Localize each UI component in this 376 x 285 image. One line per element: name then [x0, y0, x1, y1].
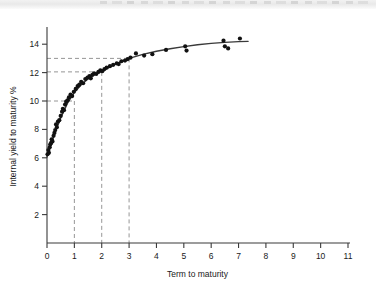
- figure-page: 246810121401234567891011Term to maturity…: [0, 0, 376, 285]
- data-point: [59, 114, 63, 118]
- data-point: [50, 139, 54, 143]
- scatter-series-bond-observations: [45, 36, 242, 156]
- data-point: [81, 81, 85, 85]
- x-axis-tick-label-0: 0: [45, 251, 50, 261]
- y-axis-tick-label-10: 10: [30, 96, 40, 106]
- yield-curve-figure: 246810121401234567891011Term to maturity…: [0, 9, 376, 285]
- y-axis-tick-label-12: 12: [30, 68, 40, 78]
- x-axis-tick-label-1: 1: [72, 251, 77, 261]
- data-point: [134, 51, 138, 55]
- data-point: [183, 44, 187, 48]
- data-point: [55, 125, 59, 129]
- data-point: [238, 36, 242, 40]
- data-point: [221, 39, 225, 43]
- x-axis-tick-label-7: 7: [236, 251, 241, 261]
- y-axis-tick-label-6: 6: [34, 153, 39, 163]
- y-axis-tick-label-2: 2: [34, 210, 39, 220]
- data-point: [62, 108, 66, 112]
- data-point: [119, 59, 123, 63]
- page-header-bleed: [0, 0, 376, 9]
- y-axis-title: Internal yield to maturity %: [8, 86, 18, 187]
- x-axis-tick-label-4: 4: [154, 251, 159, 261]
- data-point: [57, 118, 61, 122]
- data-point: [226, 46, 230, 50]
- x-axis-tick-label-6: 6: [209, 251, 214, 261]
- chart-canvas: 246810121401234567891011Term to maturity…: [0, 9, 376, 285]
- x-axis-tick-label-3: 3: [127, 251, 132, 261]
- x-axis-tick-label-9: 9: [291, 251, 296, 261]
- data-point: [142, 53, 146, 57]
- x-axis-tick-label-11: 11: [344, 251, 353, 261]
- y-axis-tick-label-14: 14: [30, 39, 40, 49]
- x-axis-tick-label-5: 5: [181, 251, 186, 261]
- x-axis-tick-label-10: 10: [316, 251, 326, 261]
- data-point: [70, 94, 74, 98]
- page-header-text-smudge: [100, 1, 370, 4]
- data-point: [47, 151, 51, 155]
- data-point: [128, 56, 132, 60]
- x-axis-title: Term to maturity: [167, 269, 229, 279]
- data-point: [150, 52, 154, 56]
- x-axis-tick-label-8: 8: [264, 251, 269, 261]
- y-axis-tick-label-4: 4: [34, 181, 39, 191]
- x-axis-tick-label-2: 2: [99, 251, 104, 261]
- y-axis-tick-label-8: 8: [34, 124, 39, 134]
- data-point: [164, 48, 168, 52]
- data-point: [184, 48, 188, 52]
